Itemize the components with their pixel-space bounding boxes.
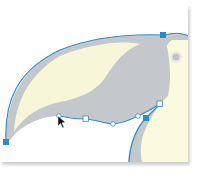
bezier-handle[interactable] [111,122,116,127]
artboard[interactable] [0,6,188,162]
eye [173,54,180,61]
bezier-handle[interactable] [136,114,141,119]
anchor-point-selected[interactable] [143,115,149,121]
anchor-point-selected[interactable] [3,139,9,145]
toucan-illustration [0,6,188,162]
anchor-point[interactable] [83,116,89,122]
direct-selection-cursor-icon [58,116,66,128]
anchor-point-selected[interactable] [160,32,166,38]
canvas-area[interactable] [0,0,206,174]
anchor-point[interactable] [157,101,163,107]
